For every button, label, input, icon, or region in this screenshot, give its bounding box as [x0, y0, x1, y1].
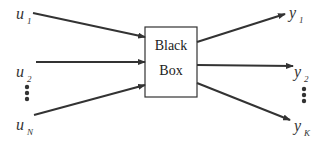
- output-arrow-1: [197, 14, 285, 42]
- output-ellipsis-dots: [302, 87, 306, 103]
- output-arrow-2: [197, 65, 293, 66]
- input-arrow-1: [33, 13, 145, 37]
- input-label-2: u2: [16, 64, 29, 80]
- box-label-line2: Box: [145, 63, 197, 79]
- output-arrow-k: [197, 83, 290, 120]
- black-box-diagram: Black Box u1 u2 uN y1 y2 yK: [0, 0, 325, 145]
- output-label-k: yK: [294, 118, 307, 134]
- output-label-1: y1: [289, 5, 301, 21]
- output-label-2: y2: [294, 64, 306, 80]
- input-ellipsis-dots: [25, 85, 29, 101]
- input-label-n: uN: [16, 117, 30, 133]
- input-label-1: u1: [16, 6, 29, 22]
- box-label-line1: Black: [145, 38, 197, 54]
- input-arrow-n: [34, 85, 145, 115]
